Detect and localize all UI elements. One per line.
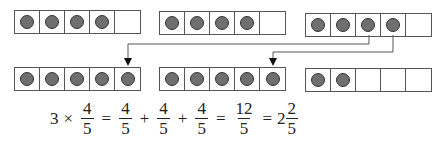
- fraction: 4 5: [119, 100, 132, 137]
- counter-icon: [45, 72, 59, 86]
- counter-icon: [190, 72, 204, 86]
- counter-icon: [215, 72, 229, 86]
- counter-icon: [20, 72, 34, 86]
- bottom-strip-3: [305, 68, 432, 92]
- counter-icon: [311, 73, 325, 87]
- fraction: 4 5: [157, 100, 170, 137]
- counter-icon: [240, 72, 254, 86]
- fraction: 4 5: [195, 100, 208, 137]
- cell: [65, 68, 90, 90]
- equation: 3 × 4 5 = 4 5 + 4 5 + 4 5 = 12 5 = 2 2 5: [50, 100, 301, 137]
- cell: [160, 68, 185, 90]
- equals-sign: =: [102, 109, 112, 129]
- arrow-to-strip-2: [273, 35, 393, 59]
- counter-icon: [266, 72, 280, 86]
- sum-fraction: 12 5: [233, 100, 254, 137]
- counter-icon: [70, 72, 84, 86]
- cell: [185, 68, 210, 90]
- cell: [306, 69, 331, 91]
- times-sign: ×: [64, 109, 74, 129]
- counter-icon: [95, 72, 109, 86]
- bottom-strip-1: [14, 67, 141, 91]
- cell: [210, 68, 235, 90]
- counter-icon: [165, 72, 179, 86]
- cell: [90, 68, 115, 90]
- mixed-fraction: 2 5: [286, 100, 299, 137]
- empty-cell: [356, 69, 381, 91]
- cell: [115, 68, 140, 90]
- equals-sign: =: [262, 109, 272, 129]
- arrow-head-icon: [269, 58, 277, 66]
- bottom-strip-2: [159, 67, 286, 91]
- arrow-to-strip-1: [128, 35, 369, 59]
- arrow-head-icon: [124, 58, 132, 66]
- cell: [235, 68, 260, 90]
- counter-icon: [336, 73, 350, 87]
- cell: [331, 69, 356, 91]
- empty-cell: [406, 69, 431, 91]
- factor: 3: [50, 109, 59, 129]
- plus-sign: +: [178, 109, 188, 129]
- counter-icon: [121, 72, 135, 86]
- plus-sign: +: [140, 109, 150, 129]
- equals-sign: =: [216, 109, 226, 129]
- cell: [15, 68, 40, 90]
- empty-cell: [381, 69, 406, 91]
- cell: [40, 68, 65, 90]
- mixed-whole: 2: [277, 109, 286, 129]
- fraction: 4 5: [81, 100, 94, 137]
- cell: [260, 68, 285, 90]
